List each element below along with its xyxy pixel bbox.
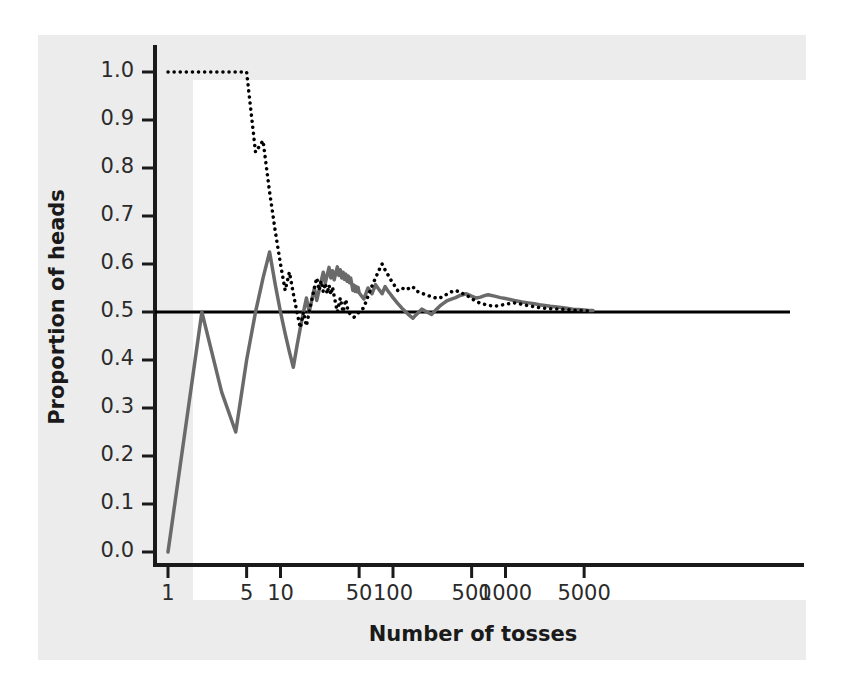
y-tick-label-2: 0.2 — [74, 442, 134, 466]
y-tick-label-5: 0.5 — [74, 298, 134, 322]
y-tick-label-4: 0.4 — [74, 346, 134, 370]
series-line-0 — [168, 252, 593, 552]
x-tick-label-6: 1000 — [466, 581, 546, 605]
chart-page: 0.00.10.20.30.40.50.60.70.80.91.0 151050… — [0, 0, 846, 695]
x-tick-label-7: 5000 — [544, 581, 624, 605]
x-axis-title: Number of tosses — [233, 622, 713, 646]
y-tick-label-0: 0.0 — [74, 538, 134, 562]
y-axis-title: Proportion of heads — [45, 187, 69, 427]
y-tick-label-1: 0.1 — [74, 490, 134, 514]
y-tick-label-8: 0.8 — [74, 154, 134, 178]
x-tick-label-2: 10 — [241, 581, 321, 605]
axes-group — [142, 45, 804, 578]
x-tick-label-4: 100 — [353, 581, 433, 605]
y-tick-label-9: 0.9 — [74, 106, 134, 130]
y-tick-label-3: 0.3 — [74, 394, 134, 418]
x-tick-label-0: 1 — [128, 581, 208, 605]
y-tick-label-6: 0.6 — [74, 250, 134, 274]
y-tick-label-10: 1.0 — [74, 58, 134, 82]
y-tick-label-7: 0.7 — [74, 202, 134, 226]
